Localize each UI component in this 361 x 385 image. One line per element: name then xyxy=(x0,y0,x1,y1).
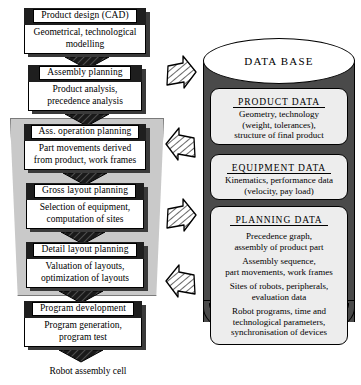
stage-body-text: Part movements derived from product, wor… xyxy=(24,141,146,170)
database-title: DATA BASE xyxy=(244,55,314,67)
db-panel-group: Sites of robots, peripherals, evaluation… xyxy=(214,281,344,302)
stage-body-text: Geometrical, technological modelling xyxy=(24,25,146,54)
db-panel-title: PRODUCT DATA xyxy=(233,97,325,108)
stage-header: Assembly planning xyxy=(28,65,142,82)
db-panel-group: Precedence graph, assembly of product pa… xyxy=(214,231,344,252)
stage-header-label: Program development xyxy=(32,302,134,316)
stage-body-text: Selection of equipment, computation of s… xyxy=(26,200,144,229)
stage-program-development[interactable]: Program development Program generation, … xyxy=(24,301,142,347)
stage-header: Detail layout planning xyxy=(26,242,144,259)
db-panel-product-data[interactable]: PRODUCT DATA Geometry, technology (weigh… xyxy=(210,88,348,145)
stage-body-text: Product analysis, precedence analysis xyxy=(28,82,142,111)
side-arrow-right-1 xyxy=(164,55,198,95)
stage-product-design[interactable]: Product design (CAD) Geometrical, techno… xyxy=(24,8,146,54)
db-panel-title: EQUIPMENT DATA xyxy=(227,163,331,174)
db-panel-group: Robot programs, time and technological p… xyxy=(214,306,344,338)
db-panel-title-wrap: PRODUCT DATA xyxy=(214,91,344,109)
db-panel-group: Assembly sequence, part movements, work … xyxy=(214,256,344,277)
cylinder-top-ellipse: DATA BASE xyxy=(203,38,355,84)
side-arrow-right-3 xyxy=(164,198,198,238)
db-panel-title: PLANNING DATA xyxy=(230,215,327,226)
db-panel-planning-data[interactable]: PLANNING DATA Precedence graph, assembly… xyxy=(210,206,348,345)
stage-header-label: Ass. operation planning xyxy=(31,125,140,139)
stage-header: Gross layout planning xyxy=(26,183,144,200)
stage-header-label: Detail layout planning xyxy=(33,243,136,257)
stage-ass-operation-planning[interactable]: Ass. operation planning Part movements d… xyxy=(24,124,146,170)
stage-header: Ass. operation planning xyxy=(24,124,146,141)
stage-header-label: Assembly planning xyxy=(39,66,130,80)
stage-header-label: Gross layout planning xyxy=(34,184,136,198)
stage-assembly-planning[interactable]: Assembly planning Product analysis, prec… xyxy=(28,65,142,111)
db-panel-text: Kinematics, performance data (velocity, … xyxy=(214,175,344,196)
stage-detail-layout-planning[interactable]: Detail layout planning Valuation of layo… xyxy=(26,242,144,288)
db-panel-title-wrap: PLANNING DATA xyxy=(214,209,344,227)
stage-header-label: Product design (CAD) xyxy=(33,9,137,23)
db-panel-text: Geometry, technology (weight, tolerances… xyxy=(214,109,344,141)
database-cylinder: DATA BASE PRODUCT DATA Geometry, technol… xyxy=(203,38,355,343)
stage-body-text: Program generation, program test xyxy=(24,318,142,347)
diagram-caption: Robot assembly cell xyxy=(8,366,168,377)
side-arrow-left-4 xyxy=(164,264,198,304)
stage-header: Product design (CAD) xyxy=(24,8,146,25)
stage-header: Program development xyxy=(24,301,142,318)
db-panel-equipment-data[interactable]: EQUIPMENT DATA Kinematics, performance d… xyxy=(210,154,348,200)
side-arrow-left-2 xyxy=(164,127,198,167)
stage-gross-layout-planning[interactable]: Gross layout planning Selection of equip… xyxy=(26,183,144,229)
stage-body-text: Valuation of layouts, optimization of la… xyxy=(26,259,144,288)
assembly-planning-diagram: Product design (CAD) Geometrical, techno… xyxy=(0,0,361,385)
db-panel-title-wrap: EQUIPMENT DATA xyxy=(214,157,344,175)
